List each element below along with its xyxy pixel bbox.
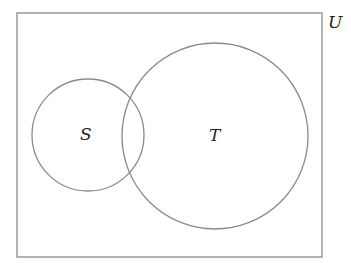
venn-diagram — [0, 0, 351, 263]
set-t-label: T — [209, 127, 220, 144]
universe-rectangle — [17, 13, 322, 257]
universe-label: U — [328, 14, 342, 31]
set-s-label: S — [80, 126, 92, 143]
